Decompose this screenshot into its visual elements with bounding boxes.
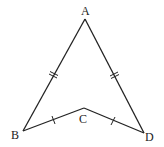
label-b: B <box>11 128 19 142</box>
segment-ad <box>85 19 144 133</box>
segment-cd <box>84 108 144 133</box>
label-d: D <box>145 130 154 144</box>
label-a: A <box>81 4 90 18</box>
segment-ab <box>23 19 85 131</box>
label-c: C <box>79 112 87 126</box>
dart-quadrilateral-diagram: A B C D <box>0 0 164 147</box>
